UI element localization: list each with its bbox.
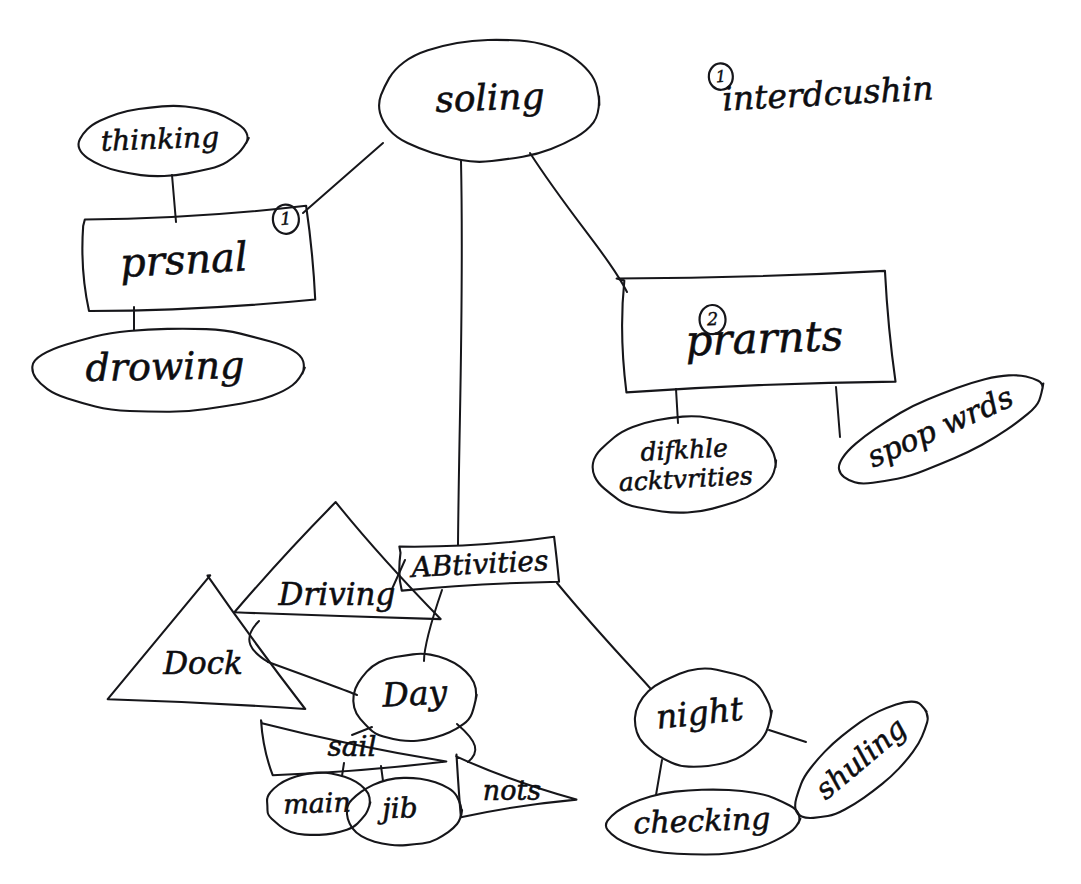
edge-activities-day	[424, 590, 442, 661]
node-prarnts[interactable]: prarnts2	[617, 269, 896, 393]
node-main[interactable]: main	[266, 771, 371, 837]
node-drowing-label: drowing	[85, 343, 245, 390]
node-shuling-label: shuling	[808, 711, 913, 806]
node-soling-label: soling	[435, 75, 546, 120]
edge-thinking-prsnal	[172, 175, 176, 222]
edge-soling-prsnal	[303, 143, 383, 213]
node-spop-wrds-label: spop wrds	[862, 379, 1019, 474]
node-dock-label: Dock	[162, 645, 243, 681]
node-soling[interactable]: soling	[377, 36, 601, 165]
edge-prarnts-spop	[836, 387, 840, 437]
node-day-label: Day	[380, 672, 448, 714]
edge-soling-activities	[458, 161, 462, 545]
node-sail[interactable]: sail	[261, 720, 446, 775]
node-sail-label: sail	[328, 730, 377, 763]
node-nots-label: nots	[483, 775, 541, 806]
node-activities-label: ABtivities	[408, 544, 549, 584]
node-dock[interactable]: Dock	[108, 575, 306, 709]
node-difkhle-acktvrities-label: difkhle	[640, 433, 729, 467]
node-activities[interactable]: ABtivities	[398, 537, 559, 591]
node-dock-outline	[108, 575, 306, 709]
node-thinking-label: thinking	[100, 121, 219, 158]
node-drowing[interactable]: drowing	[32, 327, 306, 415]
annotations-layer: 1interdcushin	[708, 52, 934, 119]
annotation-introduction: 1interdcushin	[708, 52, 934, 119]
mindmap-canvas: solingthinkingprsnal1drowingprarnts2difk…	[0, 0, 1081, 884]
edge-soling-prarnts	[530, 153, 627, 292]
mindmap-drawing: solingthinkingprsnal1drowingprarnts2difk…	[0, 0, 1081, 884]
node-difkhle-acktvrities[interactable]: difkhleacktvrities	[590, 412, 778, 517]
edge-activities-night	[557, 583, 650, 688]
node-driving-label: Driving	[278, 576, 396, 612]
node-night[interactable]: night	[630, 662, 777, 773]
node-prsnal-label: prsnal	[119, 233, 249, 286]
node-prarnts-badge-number: 2	[706, 309, 719, 329]
node-jib-label: jib	[376, 791, 419, 825]
edge-sail-main	[342, 763, 344, 776]
node-checking[interactable]: checking	[605, 786, 802, 858]
node-difkhle-acktvrities-label-line2: acktvrities	[618, 461, 753, 497]
node-driving[interactable]: Driving	[234, 502, 440, 619]
node-prsnal-badge-number: 1	[280, 208, 292, 229]
nodes-layer: solingthinkingprsnal1drowingprarnts2difk…	[32, 36, 1057, 858]
node-thinking[interactable]: thinking	[77, 103, 250, 179]
edge-night-checking	[656, 760, 662, 795]
node-main-label: main	[283, 786, 352, 819]
edge-day-nots	[457, 724, 475, 762]
node-checking-label: checking	[633, 801, 771, 841]
node-prsnal[interactable]: prsnal1	[80, 203, 315, 314]
node-night-label: night	[654, 689, 746, 737]
node-nots[interactable]: nots	[456, 755, 576, 818]
node-spop-wrds[interactable]: spop wrds	[827, 354, 1056, 503]
annotation-introduction-text: interdcushin	[721, 69, 934, 119]
node-shuling[interactable]: shuling	[778, 684, 944, 838]
edge-night-shuling	[769, 730, 806, 742]
